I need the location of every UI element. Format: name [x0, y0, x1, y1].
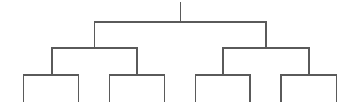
tree-edges — [24, 3, 337, 101]
tree-diagram-svg — [0, 0, 356, 110]
tree-diagram — [0, 0, 356, 110]
